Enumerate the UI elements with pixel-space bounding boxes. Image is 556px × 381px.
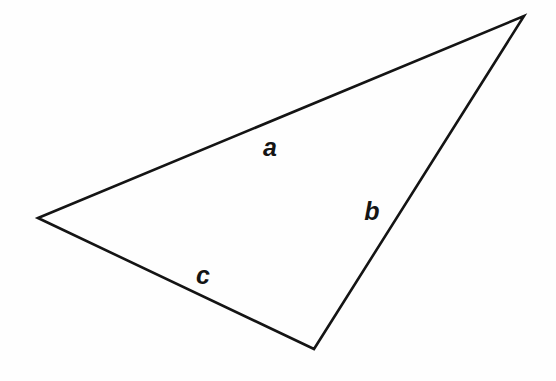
side-label-a: a xyxy=(263,135,277,160)
side-label-b: b xyxy=(364,199,379,224)
side-label-c: c xyxy=(196,263,210,288)
triangle-svg xyxy=(0,0,556,381)
figure-canvas: a b c xyxy=(0,0,556,381)
triangle-outline xyxy=(38,16,524,349)
